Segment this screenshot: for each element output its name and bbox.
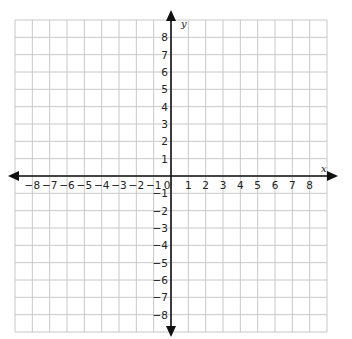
y-tick-label: 1 xyxy=(161,153,168,165)
y-tick-label: −7 xyxy=(153,291,168,303)
y-tick-label: 2 xyxy=(161,135,168,147)
y-tick-label: −5 xyxy=(153,257,168,269)
x-tick-label: −6 xyxy=(59,179,75,191)
coordinate-plane: −8−7−6−5−4−3−2−1012345678 87654321−1−2−3… xyxy=(0,0,352,339)
x-tick-label: −4 xyxy=(94,179,110,191)
x-tick-label: 7 xyxy=(289,179,296,191)
y-tick-label: −2 xyxy=(153,205,168,217)
x-tick-label: −5 xyxy=(77,179,92,191)
x-tick-label: 1 xyxy=(185,179,192,191)
x-tick-label: 6 xyxy=(272,179,279,191)
y-tick-label: −8 xyxy=(153,309,168,321)
x-tick-label: 8 xyxy=(306,179,313,191)
x-tick-label: −7 xyxy=(42,179,57,191)
y-tick-label: 5 xyxy=(161,83,168,95)
x-tick-label: 4 xyxy=(237,179,244,191)
axes xyxy=(8,10,338,337)
x-tick-label: −3 xyxy=(111,179,126,191)
x-tick-label: 2 xyxy=(202,179,209,191)
y-tick-label: 3 xyxy=(161,118,168,130)
y-tick-label: 6 xyxy=(161,66,168,78)
x-tick-labels: −8−7−6−5−4−3−2−1012345678 xyxy=(25,179,313,191)
x-axis-left-arrow-icon xyxy=(8,171,19,181)
x-tick-label: −8 xyxy=(25,179,40,191)
y-tick-label: 7 xyxy=(161,49,168,61)
x-tick-label: 3 xyxy=(220,179,227,191)
y-tick-label: −3 xyxy=(153,222,168,234)
y-axis-label: y xyxy=(180,18,187,29)
x-tick-label: 5 xyxy=(254,179,261,191)
y-axis-up-arrow-icon xyxy=(166,10,176,21)
y-tick-label: 8 xyxy=(161,31,168,43)
x-axis-right-arrow-icon xyxy=(327,171,338,181)
y-tick-label: 4 xyxy=(161,101,168,113)
y-tick-label: −6 xyxy=(153,274,169,286)
x-axis-label: x xyxy=(321,163,327,174)
y-tick-label: −1 xyxy=(153,187,168,199)
x-tick-label: −2 xyxy=(129,179,144,191)
y-tick-label: −4 xyxy=(153,239,169,251)
